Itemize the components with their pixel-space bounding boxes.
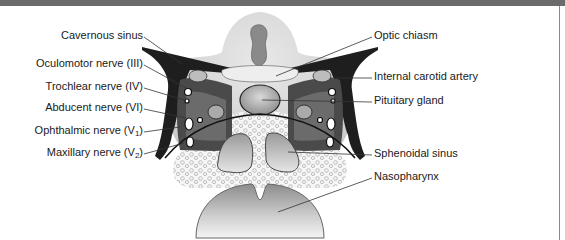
optic-chiasm-shape [222,66,298,83]
label-text: Oculomotor nerve (III) [36,57,143,69]
label-text: Internal carotid artery [374,70,478,82]
label-optic-chiasm: Optic chiasm [374,29,438,42]
label-abducent-nerve: Abducent nerve (VI) [45,101,143,114]
label-text: Cavernous sinus [61,29,143,41]
label-ophthalmic-nerve: Ophthalmic nerve (V1) [35,124,143,140]
label-text: Sphenoidal sinus [374,147,458,159]
label-text: Pituitary gland [374,94,444,106]
label-suffix: ) [139,124,143,136]
label-internal-carotid-artery: Internal carotid artery [374,70,478,83]
nasopharynx-shape [196,184,324,238]
label-text: Maxillary nerve (V [47,146,135,158]
label-pituitary-gland: Pituitary gland [374,94,444,107]
label-suffix: ) [139,146,143,158]
label-cavernous-sinus: Cavernous sinus [61,29,143,42]
label-text: Optic chiasm [374,29,438,41]
label-trochlear-nerve: Trochlear nerve (IV) [46,80,143,93]
label-oculomotor-nerve: Oculomotor nerve (III) [36,57,143,70]
label-text: Abducent nerve (VI) [45,101,143,113]
label-text: Nasopharynx [374,170,439,182]
label-nasopharynx: Nasopharynx [374,170,439,183]
label-sphenoidal-sinus: Sphenoidal sinus [374,147,458,160]
label-text: Trochlear nerve (IV) [46,80,143,92]
label-maxillary-nerve: Maxillary nerve (V2) [47,146,143,162]
label-text: Ophthalmic nerve (V [35,124,135,136]
